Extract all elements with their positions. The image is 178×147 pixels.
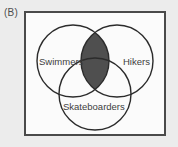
venn-figure: (B) Swimmers Hikers Skateboarders [0, 0, 178, 147]
venn-frame: Swimmers Hikers Skateboarders [24, 11, 166, 136]
label-swimmers: Swimmers [39, 56, 84, 67]
label-skateboarders: Skateboarders [63, 101, 125, 112]
panel-label: (B) [4, 7, 18, 19]
label-hikers: Hikers [123, 56, 150, 67]
venn-diagram-svg: Swimmers Hikers Skateboarders [26, 13, 164, 134]
